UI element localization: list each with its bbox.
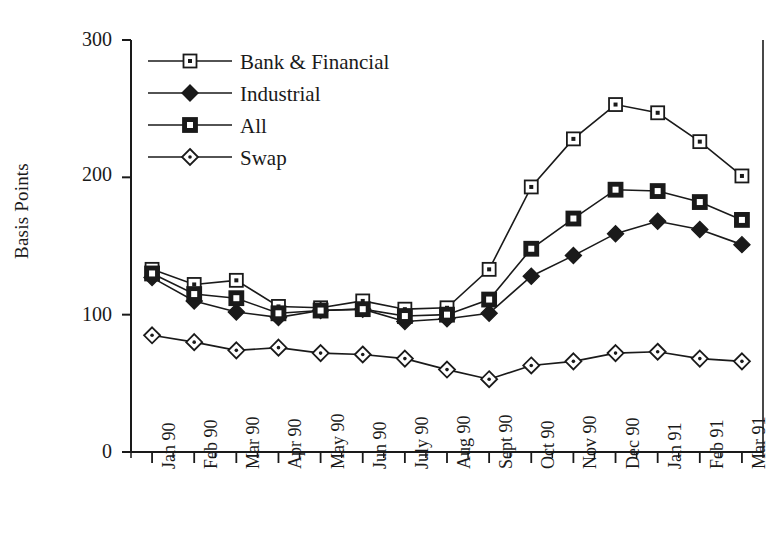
data-point-3-8-core xyxy=(487,377,491,381)
data-point-3-13-core xyxy=(698,357,702,361)
data-point-1-2 xyxy=(228,304,244,320)
data-point-3-11-core xyxy=(614,351,618,355)
x-tick-label-11: Dec 90 xyxy=(623,418,644,469)
x-tick-label-8: Sept 90 xyxy=(496,414,517,469)
data-point-3-10-core xyxy=(572,360,576,364)
data-point-2-7-core xyxy=(444,312,450,318)
data-point-2-4-core xyxy=(318,308,324,314)
data-point-0-8-core xyxy=(487,267,491,271)
legend-marker-2-core xyxy=(187,122,193,128)
x-tick-label-3: Apr 90 xyxy=(285,419,306,470)
data-point-2-10-core xyxy=(570,216,576,222)
data-point-3-4-core xyxy=(319,351,323,355)
data-point-1-14 xyxy=(734,237,750,253)
data-point-3-0-core xyxy=(150,333,154,337)
data-point-2-3-core xyxy=(275,310,281,316)
data-point-2-1-core xyxy=(191,291,197,297)
data-point-2-0-core xyxy=(149,270,155,276)
data-point-0-1-core xyxy=(192,282,196,286)
data-point-0-13-core xyxy=(698,140,702,144)
x-tick-label-7: Aug 90 xyxy=(454,416,475,470)
series-swap xyxy=(144,327,750,387)
data-point-2-13-core xyxy=(697,199,703,205)
data-point-2-12-core xyxy=(655,188,661,194)
data-point-0-9-core xyxy=(529,185,533,189)
series-bank-financial xyxy=(146,98,749,316)
data-point-0-14-core xyxy=(740,174,744,178)
x-tick-label-4: May 90 xyxy=(328,414,349,470)
data-point-3-14-core xyxy=(740,360,744,364)
data-point-3-2-core xyxy=(235,349,239,353)
legend-marker-1 xyxy=(182,85,198,101)
x-tick-label-9: Oct 90 xyxy=(538,421,559,470)
data-point-3-5-core xyxy=(361,353,365,357)
data-point-3-9-core xyxy=(529,364,533,368)
chart-figure: Basis Points 300 200 100 0 Bank & Financ… xyxy=(0,0,784,558)
data-point-3-1-core xyxy=(192,340,196,344)
data-point-0-12-core xyxy=(656,111,660,115)
legend-marker-0-core xyxy=(188,59,192,63)
x-tick-label-0: Jan 90 xyxy=(159,423,180,470)
data-point-0-11-core xyxy=(614,103,618,107)
data-point-2-6-core xyxy=(402,313,408,319)
x-tick-label-5: Jun 90 xyxy=(370,421,391,469)
data-point-1-10 xyxy=(565,248,581,264)
x-tick-label-6: July 90 xyxy=(412,416,433,469)
x-tick-label-14: Mar 91 xyxy=(749,417,770,470)
data-point-2-11-core xyxy=(613,187,619,193)
data-point-3-12-core xyxy=(656,350,660,354)
data-point-3-6-core xyxy=(403,357,407,361)
data-point-1-13 xyxy=(692,222,708,238)
plot-area xyxy=(0,0,784,558)
data-point-1-12 xyxy=(650,213,666,229)
x-tick-label-2: Mar 90 xyxy=(243,417,264,470)
data-point-2-5-core xyxy=(360,306,366,312)
x-tick-label-12: Jan 91 xyxy=(665,423,686,470)
data-point-2-2-core xyxy=(233,295,239,301)
data-point-0-10-core xyxy=(571,137,575,141)
data-point-2-8-core xyxy=(486,297,492,303)
x-tick-label-13: Feb 91 xyxy=(707,420,728,470)
data-point-2-9-core xyxy=(528,246,534,252)
data-point-1-11 xyxy=(608,226,624,242)
data-point-0-2-core xyxy=(234,278,238,282)
legend-marker-3-core xyxy=(188,155,192,159)
legend xyxy=(148,55,232,166)
data-point-2-14-core xyxy=(739,217,745,223)
x-tick-label-1: Feb 90 xyxy=(201,420,222,470)
data-point-3-7-core xyxy=(445,368,449,372)
x-tick-label-10: Nov 90 xyxy=(580,416,601,470)
data-point-3-3-core xyxy=(277,346,281,350)
